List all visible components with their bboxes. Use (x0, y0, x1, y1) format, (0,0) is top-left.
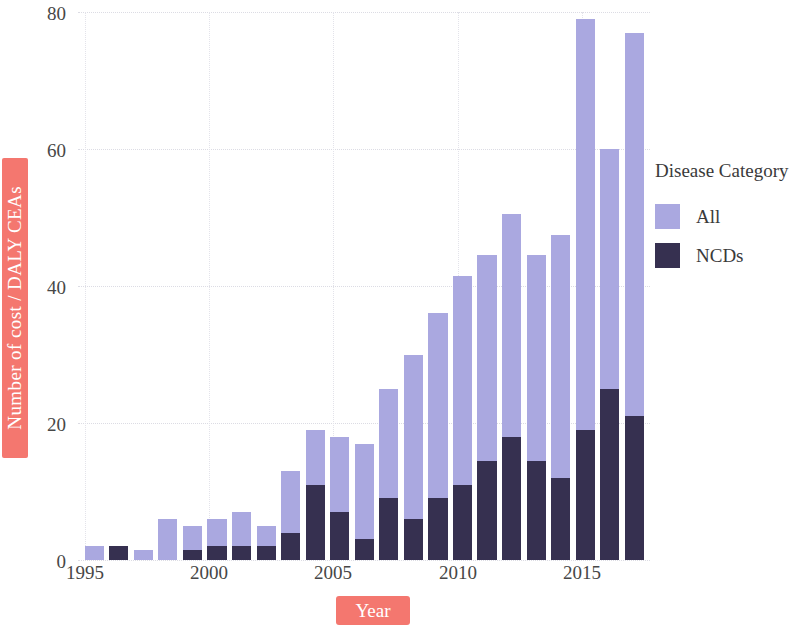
bar-segment-all-1997[interactable] (134, 550, 153, 560)
bar-segment-ncds-2013[interactable] (527, 461, 546, 560)
bar-group-2011[interactable] (477, 255, 496, 560)
x-tick-label-2000: 2000 (169, 563, 249, 582)
bar-group-1998[interactable] (158, 519, 177, 560)
x-tick-label-2015: 2015 (542, 563, 622, 582)
bar-segment-ncds-2014[interactable] (551, 478, 570, 560)
bar-segment-ncds-2016[interactable] (600, 389, 619, 560)
y-tick-label-80: 80 (22, 4, 66, 23)
bar-group-2003[interactable] (281, 471, 300, 560)
bar-group-2005[interactable] (330, 437, 349, 560)
bar-group-2010[interactable] (453, 276, 472, 560)
x-axis-label-highlight: Year (336, 596, 410, 625)
bar-group-2008[interactable] (404, 355, 423, 561)
legend-title: Disease Category (655, 160, 800, 182)
bar-group-1997[interactable] (134, 550, 153, 560)
bar-segment-ncds-2015[interactable] (576, 430, 595, 560)
bar-segment-ncds-2010[interactable] (453, 485, 472, 560)
bar-segment-ncds-2008[interactable] (404, 519, 423, 560)
bar-segment-all-1995[interactable] (85, 546, 104, 560)
bar-segment-ncds-2000[interactable] (207, 546, 226, 560)
bar-group-2013[interactable] (527, 255, 546, 560)
bar-segment-ncds-2017[interactable] (625, 416, 644, 560)
x-axis-label-text: Year (355, 601, 390, 620)
bar-segment-ncds-2012[interactable] (502, 437, 521, 560)
y-tick-label-60: 60 (22, 141, 66, 160)
bar-group-2017[interactable] (625, 33, 644, 560)
bar-group-2002[interactable] (257, 526, 276, 560)
bar-group-1996[interactable] (109, 546, 128, 560)
y-axis-label-text: Number of cost / DALY CEAs (4, 186, 26, 430)
bar-segment-ncds-2005[interactable] (330, 512, 349, 560)
bar-group-2007[interactable] (379, 389, 398, 560)
bar-segment-ncds-2004[interactable] (306, 485, 325, 560)
bar-segment-ncds-1996[interactable] (109, 546, 128, 560)
bar-series-container (78, 12, 650, 560)
bar-group-1995[interactable] (85, 546, 104, 560)
x-tick-label-1995: 1995 (45, 563, 125, 582)
bar-segment-ncds-2002[interactable] (257, 546, 276, 560)
bar-group-2012[interactable] (502, 214, 521, 560)
legend-label-all: All (696, 206, 720, 228)
bar-group-1999[interactable] (183, 526, 202, 560)
legend-item-all[interactable]: All (655, 204, 800, 229)
bar-segment-ncds-2001[interactable] (232, 546, 251, 560)
bar-segment-ncds-1999[interactable] (183, 550, 202, 560)
bar-group-2009[interactable] (428, 313, 447, 560)
y-tick-label-40: 40 (22, 278, 66, 297)
bar-segment-all-1998[interactable] (158, 519, 177, 560)
stacked-bar-chart-figure: Number of cost / DALY CEAs 80 60 40 20 0… (0, 0, 803, 631)
x-tick-label-2005: 2005 (293, 563, 373, 582)
legend-swatch-all (655, 204, 680, 229)
legend-label-ncds: NCDs (696, 245, 744, 267)
bar-segment-ncds-2007[interactable] (379, 498, 398, 560)
legend: Disease Category All NCDs (655, 160, 800, 282)
bar-group-2006[interactable] (355, 444, 374, 560)
bar-group-2001[interactable] (232, 512, 251, 560)
x-tick-label-2010: 2010 (418, 563, 498, 582)
bar-segment-ncds-2006[interactable] (355, 539, 374, 560)
bar-group-2016[interactable] (600, 149, 619, 560)
bar-segment-ncds-2009[interactable] (428, 498, 447, 560)
bar-segment-ncds-2003[interactable] (281, 533, 300, 560)
legend-item-ncds[interactable]: NCDs (655, 243, 800, 268)
y-axis-label-highlight: Number of cost / DALY CEAs (2, 158, 28, 458)
bar-group-2000[interactable] (207, 519, 226, 560)
bar-segment-ncds-2011[interactable] (477, 461, 496, 560)
y-tick-label-20: 20 (22, 415, 66, 434)
plot-area (78, 12, 650, 560)
bar-group-2015[interactable] (576, 19, 595, 560)
legend-swatch-ncds (655, 243, 680, 268)
bar-group-2014[interactable] (551, 235, 570, 560)
bar-group-2004[interactable] (306, 430, 325, 560)
